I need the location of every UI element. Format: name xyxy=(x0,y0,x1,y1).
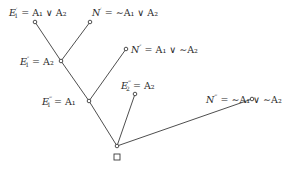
node-e1-prime xyxy=(33,20,37,24)
label-equation: = A₂ xyxy=(133,80,155,91)
edge-e1ppp-root xyxy=(89,101,117,146)
label-sup: ″ xyxy=(139,43,141,50)
root-square-marker xyxy=(114,154,120,160)
label-equation: = A₂ xyxy=(32,56,54,67)
label-e1-prime: E′1 = A₁ ∨ A₂ xyxy=(9,7,66,19)
edge-e2ppp-root xyxy=(117,94,135,146)
label-equation: = A₁ ∨ ∼A₂ xyxy=(145,44,198,55)
node-root xyxy=(115,144,119,148)
label-n-triple-prime: N‴ = ∼A₁ ∨ ∼A₂ xyxy=(206,94,282,105)
label-sup: ‴ xyxy=(214,93,217,100)
edge-nppp-root xyxy=(117,99,252,146)
label-sub: 1 xyxy=(47,101,51,108)
label-e1-triple-prime: E‴1 = A₁ xyxy=(42,96,76,108)
node-n-double-prime xyxy=(124,47,128,51)
label-n-double-prime: N″ = A₁ ∨ ∼A₂ xyxy=(131,44,198,55)
edge-np-e1pp xyxy=(61,22,90,61)
node-e1-double-prime xyxy=(59,59,63,63)
edge-npp-e1ppp xyxy=(89,49,126,101)
node-n-prime xyxy=(88,20,92,24)
label-n-prime: N′ = ∼A₁ ∨ A₂ xyxy=(92,7,158,18)
edge-e1pp-e1ppp xyxy=(61,61,89,101)
label-sub: 2 xyxy=(126,85,130,92)
label-e2-triple-prime: E‴2 = A₂ xyxy=(121,80,155,92)
node-e1-triple-prime xyxy=(87,99,91,103)
node-e2-triple-prime xyxy=(133,92,137,96)
label-equation: = A₁ xyxy=(54,96,76,107)
label-e1-double-prime: E″1 = A₂ xyxy=(20,56,54,68)
label-equation: = A₁ ∨ A₂ xyxy=(21,7,66,18)
label-equation: = ∼A₁ ∨ A₂ xyxy=(105,7,158,18)
label-sup: ′ xyxy=(100,6,101,13)
label-equation: = ∼A₁ ∨ ∼A₂ xyxy=(220,94,281,105)
label-sub: 1 xyxy=(14,12,18,19)
label-sub: 1 xyxy=(25,61,29,68)
